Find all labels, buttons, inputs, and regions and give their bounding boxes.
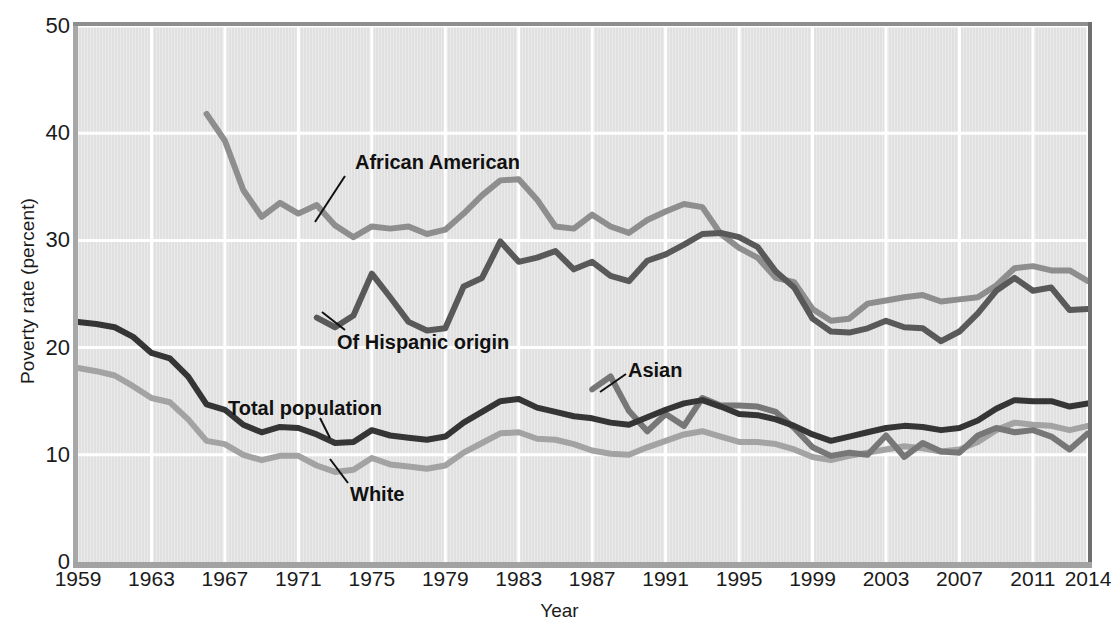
x-tick-label: 1995 <box>716 568 763 589</box>
plot-border-bottom <box>73 562 1092 568</box>
x-axis-title: Year <box>0 600 1119 622</box>
x-tick-label: 1967 <box>202 568 249 589</box>
y-axis-title: Poverty rate (percent) <box>17 141 39 441</box>
x-tick-label: 2011 <box>1010 568 1055 589</box>
x-tick-label: 2007 <box>936 568 983 589</box>
y-tick-label: 40 <box>8 122 70 144</box>
x-tick-label: 2014 <box>1065 568 1112 589</box>
chart-svg <box>78 26 1088 562</box>
plot-border-right <box>1088 22 1092 568</box>
x-tick-label: 1983 <box>495 568 542 589</box>
leader-line <box>315 176 345 222</box>
x-tick-label: 2003 <box>863 568 910 589</box>
y-tick-label: 10 <box>8 444 70 466</box>
x-tick-label: 1991 <box>642 568 689 589</box>
x-tick-label: 1975 <box>348 568 395 589</box>
poverty-rate-chart: Poverty rate (percent) Year 50403020100 … <box>0 0 1119 640</box>
gridlines <box>78 26 1088 562</box>
series-line-of-hispanic-origin <box>317 233 1088 341</box>
y-tick-label: 20 <box>8 337 70 359</box>
series-line-african-american <box>207 114 1088 321</box>
y-tick-label: 50 <box>8 15 70 37</box>
x-tick-label: 1959 <box>55 568 102 589</box>
x-tick-label: 1999 <box>789 568 836 589</box>
annotation-total-population: Total population <box>228 398 382 418</box>
annotation-white: White <box>350 484 404 504</box>
x-tick-label: 1971 <box>275 568 322 589</box>
x-tick-label: 1987 <box>569 568 616 589</box>
annotation-asian: Asian <box>628 360 682 380</box>
x-tick-label: 1963 <box>128 568 175 589</box>
x-tick-label: 1979 <box>422 568 469 589</box>
y-tick-label: 30 <box>8 229 70 251</box>
annotation-hispanic: Of Hispanic origin <box>337 332 509 352</box>
annotation-african-american: African American <box>355 152 520 172</box>
